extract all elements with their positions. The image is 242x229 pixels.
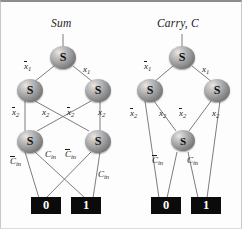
node-sum-level3-left[interactable]: S: [17, 130, 43, 153]
edge-carry-root-left: [154, 66, 173, 82]
node-sum-level3-right[interactable]: S: [85, 130, 111, 153]
edge-label-carry-l1-right: x2: [159, 109, 166, 118]
edge-carry-mid-left: [167, 152, 177, 198]
edge-label-sum-l1-left: x2: [12, 108, 19, 117]
terminal-sum-zero[interactable]: 0: [31, 197, 61, 214]
terminal-sum-one[interactable]: 1: [71, 197, 101, 214]
edge-label-sum-root-left: x1: [24, 62, 31, 71]
terminal-carry-one[interactable]: 1: [191, 197, 221, 214]
edge-label-carry-r1-right: x2: [212, 109, 219, 118]
edge-label-sum-root-right: x1: [83, 65, 90, 74]
terminal-carry-zero[interactable]: 0: [151, 197, 181, 214]
node-carry-root[interactable]: S: [169, 46, 195, 69]
edge-sum-root-left: [34, 66, 54, 82]
sum-diagram-title: Sum: [51, 17, 71, 29]
edge-sum-l2-right: [35, 152, 85, 198]
node-sum-level2-left[interactable]: S: [17, 79, 43, 102]
edge-label-carry-r1-left: x2: [179, 109, 186, 118]
node-sum-level2-right[interactable]: S: [85, 79, 111, 102]
edge-carry-l1-left: [145, 101, 159, 198]
node-carry-level3-mid[interactable]: S: [171, 130, 195, 151]
edge-label-sum-r1-right: x2: [98, 108, 105, 117]
edge-label-carry-l1-left: x2: [130, 109, 137, 118]
edge-label-sum-l2-right: Cin: [45, 150, 56, 159]
edge-label-carry-root-right: x1: [202, 65, 209, 74]
edge-layer: [1, 2, 242, 229]
edge-label-sum-r2-right: Cin: [98, 170, 109, 179]
edge-label-carry-root-left: x1: [144, 62, 151, 71]
figure-canvas: Sum Carry, C S S S S S x1 x1 x2 x2 x2 x2…: [0, 0, 242, 229]
edge-label-sum-r1-left: x2: [67, 108, 74, 117]
edge-label-sum-l1-right: x2: [42, 108, 49, 117]
edge-sum-l2-left: [25, 152, 39, 198]
edge-label-carry-mid-left: Cin: [152, 156, 163, 165]
edge-label-sum-l2-left: Cin: [10, 157, 21, 166]
node-carry-level2-left[interactable]: S: [137, 79, 163, 102]
carry-diagram-title: Carry, C: [157, 17, 199, 29]
edge-label-carry-mid-right: Cin: [187, 156, 198, 165]
node-sum-root[interactable]: S: [50, 46, 76, 69]
edge-carry-r1-left: [189, 101, 211, 131]
edge-label-sum-r2-left: Cin: [65, 150, 76, 159]
node-carry-level2-right[interactable]: S: [204, 79, 230, 102]
